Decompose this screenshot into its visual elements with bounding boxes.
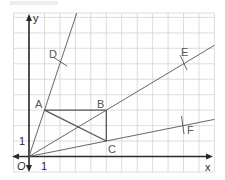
label-C: C: [108, 143, 116, 155]
label-F: F: [187, 124, 194, 136]
coordinate-diagram: D E F A B C y x O 1 1: [0, 0, 225, 180]
y-tick-label-1: 1: [19, 135, 25, 147]
x-axis-arrow-icon: [206, 154, 213, 160]
x-axis-left-arrow-icon: [12, 154, 19, 160]
origin-label: O: [17, 160, 26, 172]
label-A: A: [35, 98, 43, 110]
label-E: E: [181, 46, 188, 58]
label-B: B: [97, 98, 104, 110]
x-axis-label: x: [205, 161, 211, 173]
ray-OD: [29, 13, 77, 157]
y-axis-down-arrow-icon: [26, 165, 32, 172]
y-axis: [26, 14, 32, 172]
y-axis-label: y: [33, 12, 39, 24]
label-D: D: [49, 48, 57, 60]
x-tick-label-1: 1: [41, 160, 47, 172]
